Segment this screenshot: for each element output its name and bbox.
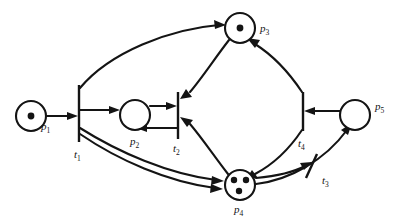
label-p3: p3 xyxy=(259,22,270,37)
arrowhead xyxy=(166,102,177,110)
token xyxy=(236,188,242,194)
place-p2[interactable] xyxy=(120,100,150,130)
token xyxy=(28,113,35,120)
label-p1: p1 xyxy=(40,120,51,135)
place-p4-circle[interactable] xyxy=(225,170,255,200)
arrowhead xyxy=(304,107,315,115)
label-t2: t2 xyxy=(173,142,180,157)
arc-t4-to-p3 xyxy=(247,38,302,92)
place-p5[interactable] xyxy=(340,100,370,130)
arc-p5-to-t4 xyxy=(304,107,340,115)
arc-p4-to-t3-inner xyxy=(256,162,312,178)
arc-p1-to-t1 xyxy=(47,112,78,120)
token xyxy=(231,177,237,183)
label-p5: p5 xyxy=(374,100,385,115)
label-t3: t3 xyxy=(322,174,329,189)
arrowhead xyxy=(67,112,78,120)
place-p3[interactable] xyxy=(225,13,255,43)
arc-t1-to-p3 xyxy=(80,20,226,88)
place-p4[interactable] xyxy=(225,170,255,200)
petri-net-diagram: p1 p2 p3 p4 p5 t1 t2 t3 t4 xyxy=(0,0,396,220)
arc-p2-to-t2 xyxy=(150,102,177,110)
arc-p4-to-t2 xyxy=(180,117,228,174)
arc-t1-to-p2 xyxy=(80,106,120,114)
label-p2: p2 xyxy=(129,135,140,150)
arc-p4-to-p5-outer xyxy=(256,123,352,184)
place-p5-circle[interactable] xyxy=(340,100,370,130)
token xyxy=(243,177,249,183)
label-t1: t1 xyxy=(74,148,81,163)
label-p4: p4 xyxy=(233,203,244,218)
arc-t1-to-p4-inner xyxy=(80,128,224,185)
petri-net-canvas: p1 p2 p3 p4 p5 t1 t2 t3 t4 xyxy=(0,0,396,220)
arrowhead xyxy=(109,106,120,114)
arrowhead xyxy=(210,184,223,193)
arrowhead xyxy=(211,176,224,185)
place-p2-circle[interactable] xyxy=(120,100,150,130)
arc-p3-to-t2 xyxy=(180,40,229,99)
token xyxy=(237,25,244,32)
label-t4: t4 xyxy=(298,137,305,152)
